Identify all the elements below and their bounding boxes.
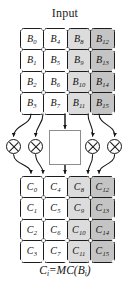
cell-symbol: B — [51, 76, 57, 87]
cell-corner-dot — [90, 197, 93, 200]
cell-subscript: 13 — [102, 207, 109, 214]
cell-symbol: C — [72, 224, 79, 235]
cell-subscript: 5 — [57, 59, 60, 66]
cell-corner-dot — [19, 27, 22, 30]
matrix-cell-b11: B11 — [67, 92, 92, 115]
cell-corner-dot — [43, 260, 46, 263]
cell-subscript: 12 — [102, 38, 109, 45]
cell-subscript: 6 — [57, 81, 60, 88]
cell-symbol: C — [50, 181, 57, 192]
cell-subscript: 8 — [81, 186, 84, 193]
cell-label: C2 — [27, 225, 37, 235]
matrix-cell-b1: B1 — [20, 49, 45, 72]
cell-label: B11 — [73, 98, 85, 108]
mixcolumns-transform-box — [49, 130, 81, 165]
cell-subscript: 0 — [33, 38, 36, 45]
caption-close-paren: ) — [87, 264, 91, 276]
cell-symbol: C — [74, 202, 81, 213]
cell-label: C3 — [27, 246, 37, 256]
cell-symbol: C — [50, 202, 57, 213]
cell-subscript: 10 — [79, 229, 86, 236]
cell-subscript: 15 — [102, 250, 109, 257]
cell-corner-dot — [112, 197, 115, 200]
cell-label: B3 — [27, 98, 36, 108]
caption-function: MC — [57, 264, 74, 276]
cell-label: B7 — [51, 98, 60, 108]
matrix-cell-c14: C14 — [90, 219, 115, 242]
cell-label: C12 — [96, 182, 109, 192]
cell-corner-dot — [112, 27, 115, 30]
cell-subscript: 6 — [57, 229, 60, 236]
cell-corner-dot — [90, 175, 93, 178]
cell-label: C5 — [50, 203, 60, 213]
matrix-cell-c5: C5 — [43, 197, 68, 220]
cell-label: C11 — [72, 246, 85, 256]
cell-subscript: 7 — [57, 102, 60, 109]
cell-subscript: 2 — [33, 81, 36, 88]
cell-symbol: C — [27, 245, 34, 256]
matrix-cell-c13: C13 — [90, 197, 115, 220]
cell-label: C6 — [50, 225, 60, 235]
cell-corner-dot — [19, 92, 22, 95]
cell-subscript: 4 — [57, 38, 60, 45]
cell-label: B8 — [74, 34, 83, 44]
cell-subscript: 0 — [34, 186, 37, 193]
cell-symbol: B — [51, 33, 57, 44]
matrix-cell-b7: B7 — [43, 92, 68, 115]
cell-corner-dot — [43, 27, 46, 30]
cell-corner-dot — [43, 175, 46, 178]
multiply-operator-2 — [28, 139, 43, 154]
matrix-cell-c4: C4 — [43, 176, 68, 199]
cell-corner-dot — [90, 260, 93, 263]
cell-corner-dot — [112, 260, 115, 263]
figure-caption: Ci=MC(Bi) — [0, 264, 130, 276]
cell-symbol: C — [50, 245, 57, 256]
matrix-cell-c0: C0 — [20, 176, 45, 199]
matrix-cell-c3: C3 — [20, 240, 45, 263]
matrix-cell-b2: B2 — [20, 71, 45, 94]
matrix-cell-b9: B9 — [67, 49, 92, 72]
cell-subscript: 14 — [102, 81, 109, 88]
caption-lhs-subscript: i — [47, 269, 49, 278]
cell-corner-dot — [90, 240, 93, 243]
cell-corner-dot — [90, 27, 93, 30]
cell-corner-dot — [43, 240, 46, 243]
caption-arg-symbol: B — [78, 264, 85, 276]
cell-subscript: 10 — [79, 81, 86, 88]
input-state-matrix: B0B4B8B12B1B5B9B13B2B6B10B14B3B7B11B15 — [20, 28, 114, 114]
matrix-cell-c10: C10 — [67, 219, 92, 242]
matrix-cell-b12: B12 — [90, 28, 115, 51]
multiply-operator-1 — [6, 139, 21, 154]
cell-corner-dot — [19, 197, 22, 200]
cell-label: B0 — [27, 34, 36, 44]
matrix-cell-b8: B8 — [67, 28, 92, 51]
cell-subscript: 5 — [57, 207, 60, 214]
matrix-cell-b3: B3 — [20, 92, 45, 115]
cell-subscript: 7 — [57, 250, 60, 257]
cell-corner-dot — [112, 92, 115, 95]
cell-subscript: 8 — [80, 38, 83, 45]
cell-corner-dot — [112, 175, 115, 178]
matrix-cell-b10: B10 — [67, 71, 92, 94]
cell-symbol: C — [27, 202, 34, 213]
matrix-cell-c12: C12 — [90, 176, 115, 199]
cell-subscript: 11 — [79, 102, 85, 109]
cell-subscript: 9 — [80, 59, 83, 66]
matrix-cell-b5: B5 — [43, 49, 68, 72]
cell-corner-dot — [43, 92, 46, 95]
cell-label: C7 — [50, 246, 60, 256]
cell-label: B13 — [96, 55, 109, 65]
cell-subscript: 15 — [102, 102, 109, 109]
cell-subscript: 11 — [79, 250, 85, 257]
cell-label: C10 — [72, 225, 85, 235]
cell-subscript: 3 — [34, 250, 37, 257]
cell-label: B2 — [27, 77, 36, 87]
cell-corner-dot — [112, 112, 115, 115]
cell-label: C1 — [27, 203, 37, 213]
matrix-cell-b0: B0 — [20, 28, 45, 51]
cell-label: B10 — [72, 77, 85, 87]
matrix-cell-b6: B6 — [43, 71, 68, 94]
cell-corner-dot — [19, 49, 22, 52]
caption-arg-subscript: i — [85, 269, 87, 278]
cell-label: C15 — [96, 246, 109, 256]
